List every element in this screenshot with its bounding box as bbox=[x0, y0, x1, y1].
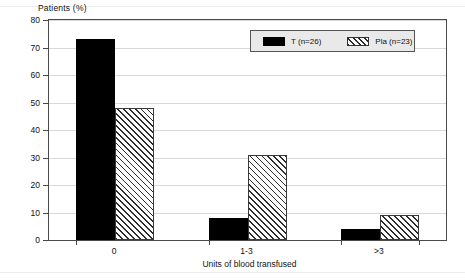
x-tick-label: 0 bbox=[112, 246, 117, 256]
bar-t-0 bbox=[76, 39, 115, 240]
scan-artifact-bottom bbox=[0, 272, 465, 273]
hatched-swatch bbox=[347, 37, 369, 46]
y-tick-label: 40 bbox=[31, 125, 40, 135]
y-tick-label: 60 bbox=[31, 70, 40, 80]
y-tick-label: 20 bbox=[31, 180, 40, 190]
y-tick-label: 30 bbox=[31, 153, 40, 163]
y-tick-label: 50 bbox=[31, 98, 40, 108]
y-tick-label: 70 bbox=[31, 43, 40, 53]
x-tick-mark bbox=[76, 240, 77, 245]
y-tick-mark bbox=[43, 213, 49, 214]
bar-t-2 bbox=[341, 229, 380, 240]
x-tick-mark bbox=[209, 240, 210, 245]
gridline bbox=[49, 20, 446, 21]
y-axis-title: Patients (%) bbox=[38, 3, 87, 13]
legend-entry-t: T (n=26) bbox=[263, 37, 321, 46]
y-tick-mark bbox=[43, 48, 49, 49]
solid-black-swatch bbox=[263, 37, 285, 46]
bar-pla-1 bbox=[248, 155, 287, 240]
y-tick-label: 0 bbox=[35, 235, 40, 245]
x-tick-mark bbox=[419, 240, 420, 245]
y-tick-mark bbox=[43, 75, 49, 76]
x-axis-title: Units of blood transfused bbox=[202, 259, 296, 269]
y-tick-mark bbox=[43, 130, 49, 131]
bar-pla-2 bbox=[380, 215, 419, 240]
x-tick-label: 1-3 bbox=[240, 246, 252, 256]
bar-t-1 bbox=[209, 218, 248, 240]
legend-label-pla: Pla (n=23) bbox=[375, 37, 412, 46]
chart-legend: T (n=26) Pla (n=23) bbox=[250, 30, 415, 52]
y-tick-label: 80 bbox=[31, 15, 40, 25]
x-axis-title-wrap: Units of blood transfused bbox=[0, 259, 465, 269]
legend-entry-pla: Pla (n=23) bbox=[347, 37, 412, 46]
legend-label-t: T (n=26) bbox=[291, 37, 321, 46]
x-tick-label: >3 bbox=[374, 246, 384, 256]
x-tick-mark bbox=[341, 240, 342, 245]
y-tick-label: 10 bbox=[31, 208, 40, 218]
y-tick-mark bbox=[43, 158, 49, 159]
y-tick-mark bbox=[43, 20, 49, 21]
y-tick-mark bbox=[43, 240, 49, 241]
y-tick-mark bbox=[43, 103, 49, 104]
plot-area: 01020304050607080 bbox=[48, 19, 447, 241]
bar-chart-figure: Patients (%) 01020304050607080 01-3>3 Un… bbox=[0, 0, 465, 280]
bar-pla-0 bbox=[115, 108, 154, 240]
y-tick-mark bbox=[43, 185, 49, 186]
